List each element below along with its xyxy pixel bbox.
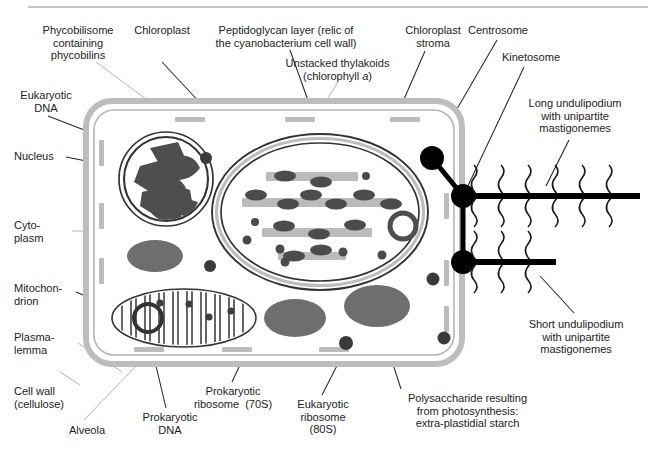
mitochondrion (112, 288, 256, 348)
label-nucleus: Nucleus (14, 150, 74, 163)
short-undulipodium (458, 231, 556, 293)
label-plasmalemma: Plasma-lemma (14, 331, 70, 356)
label-eukaryotic-dna: EukaryoticDNA (8, 89, 84, 114)
label-polysaccharide-starch: Polysaccharide resultingfrom photosynthe… (390, 392, 545, 430)
label-centrosome: Centrosome (460, 24, 536, 37)
label-cell-wall: Cell wall(cellulose) (14, 385, 84, 410)
label-unstacked-thylakoids: Unstacked thylakoids(chlorophyll a) (275, 57, 400, 82)
label-alveola: Alveola (56, 424, 118, 437)
label-kinetosome: Kinetosome (493, 51, 569, 64)
long-undulipodium (458, 165, 640, 227)
chloroplast (212, 134, 428, 290)
centrosome (420, 146, 444, 170)
label-prokaryotic-dna: ProkaryoticDNA (130, 411, 210, 436)
label-chloroplast: Chloroplast (125, 24, 199, 37)
label-peptidoglycan-layer: Peptidoglycan layer (relic ofthe cyanoba… (200, 24, 372, 49)
label-cytoplasm: Cyto-plasm (14, 219, 70, 244)
label-long-undulipodium: Long undulipodiumwith unipartitemastigon… (510, 97, 640, 135)
nucleus (119, 132, 213, 226)
label-short-undulipodium: Short undulipodiumwith unipartitemastigo… (508, 318, 644, 356)
figure-canvas: Phycobilisomecontainingphycobilins Chlor… (0, 0, 665, 456)
label-mitochondrion: Mitochon-drion (14, 282, 80, 307)
label-eukaryotic-ribosome-80s: Eukaryoticribosome(80S) (285, 398, 361, 436)
label-prokaryotic-ribosome-70s: Prokaryoticribosome (70S) (178, 385, 288, 410)
label-phycobilisome: Phycobilisomecontainingphycobilins (18, 24, 138, 62)
